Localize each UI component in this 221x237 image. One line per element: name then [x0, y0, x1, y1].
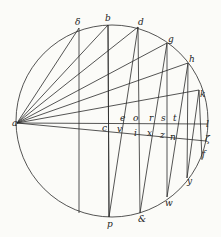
- label-zeta: ζ: [205, 134, 211, 144]
- label-n: n: [170, 132, 176, 142]
- label-e: e: [120, 113, 125, 123]
- circle-chord-diagram: a δ b d g h k l ζ f y w & p c e o r s t …: [0, 0, 221, 237]
- label-t: t: [173, 113, 177, 123]
- label-y: y: [186, 176, 193, 186]
- label-o: o: [133, 113, 139, 123]
- label-p: p: [107, 219, 113, 229]
- label-l: l: [206, 119, 209, 129]
- label-c: c: [102, 123, 107, 133]
- label-i: i: [134, 128, 137, 138]
- label-h: h: [189, 54, 195, 64]
- label-r: r: [149, 113, 154, 123]
- diagram: a δ b d g h k l ζ f y w & p c e o r s t …: [0, 0, 221, 237]
- label-w: w: [165, 198, 173, 208]
- label-v: v: [117, 124, 122, 134]
- label-z: z: [159, 130, 165, 140]
- label-k: k: [200, 89, 205, 99]
- label-d: d: [138, 17, 144, 27]
- label-amp: &: [138, 214, 146, 224]
- label-delta: δ: [75, 17, 80, 27]
- label-f: f: [201, 149, 207, 159]
- label-b: b: [105, 13, 111, 23]
- label-g: g: [168, 34, 174, 44]
- label-s: s: [161, 113, 166, 123]
- chords: [79, 25, 202, 217]
- label-x: x: [147, 128, 152, 138]
- label-a: a: [12, 118, 17, 128]
